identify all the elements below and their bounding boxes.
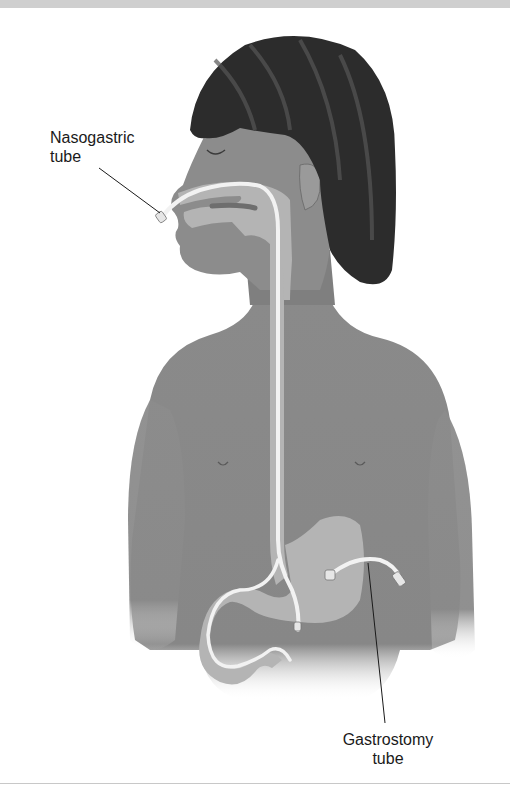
gastrostomy-label-line1: Gastrostomy bbox=[330, 730, 446, 749]
nasogastric-tube-label: Nasogastric tube bbox=[50, 128, 134, 166]
anatomy-illustration bbox=[0, 0, 510, 791]
torso bbox=[128, 300, 475, 700]
nasogastric-leader-line bbox=[99, 168, 160, 213]
nasogastric-label-line2: tube bbox=[50, 147, 134, 166]
nasogastric-label-line1: Nasogastric bbox=[50, 128, 134, 147]
gastrostomy-label-line2: tube bbox=[330, 749, 446, 768]
bottom-rule bbox=[0, 783, 510, 784]
gastrostomy-tube-label: Gastrostomy tube bbox=[330, 730, 446, 768]
